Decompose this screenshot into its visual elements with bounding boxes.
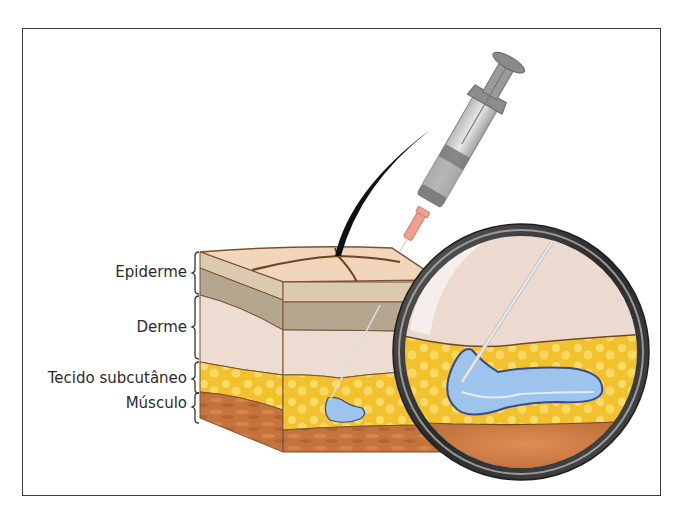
label-subcutaneous: Tecido subcutâneo (47, 369, 187, 387)
brace-subcutaneous (192, 362, 199, 393)
label-muscle: Músculo (126, 394, 187, 412)
layer-braces (192, 252, 199, 423)
label-epidermis: Epiderme (115, 263, 187, 281)
subcutaneous-injection-illustration: Epiderme Derme Tecido subcutâneo Músculo (0, 0, 681, 515)
label-dermis: Derme (136, 318, 187, 336)
brace-muscle (192, 393, 199, 423)
brace-epidermis (192, 252, 199, 294)
syringe (395, 47, 529, 254)
brace-dermis (192, 296, 199, 359)
layer-labels: Epiderme Derme Tecido subcutâneo Músculo (47, 263, 187, 412)
magnifier-lens (393, 224, 650, 480)
hair (335, 130, 430, 256)
